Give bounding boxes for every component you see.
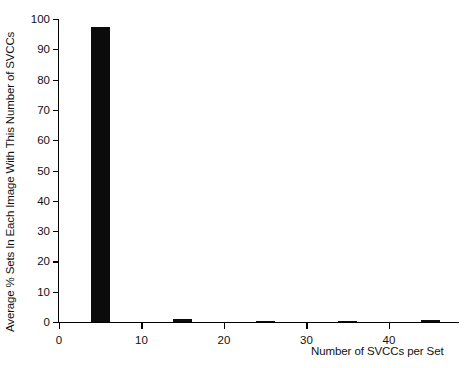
x-tick-mark — [224, 323, 225, 329]
y-tick-label: 100 — [31, 11, 50, 27]
y-tick-label: 10 — [37, 284, 50, 300]
y-tick-mark — [53, 292, 59, 293]
bar — [173, 319, 192, 322]
y-tick-mark — [53, 261, 59, 262]
x-tick-label: 10 — [135, 332, 148, 348]
x-axis-line — [58, 322, 459, 323]
y-tick-label: 40 — [37, 193, 50, 209]
y-tick-mark — [53, 80, 59, 81]
y-tick-label: 90 — [37, 41, 50, 57]
x-tick-label: 0 — [56, 332, 62, 348]
x-axis-title: Number of SVCCs per Set — [311, 345, 444, 357]
y-tick-mark — [53, 171, 59, 172]
x-tick-mark — [306, 323, 307, 329]
bar — [421, 320, 440, 322]
y-tick-label: 60 — [37, 132, 50, 148]
y-tick-label: 20 — [37, 253, 50, 269]
y-tick-mark — [53, 49, 59, 50]
y-tick-mark — [53, 19, 59, 20]
y-axis-title: Average % Sets In Each Image With This N… — [2, 2, 18, 332]
x-tick-label: 20 — [218, 332, 231, 348]
y-tick-label: 70 — [37, 102, 50, 118]
bar — [256, 321, 275, 323]
bar — [91, 27, 110, 322]
y-tick-label: 0 — [44, 314, 50, 330]
plot-area: 0102030405060708090100 — [59, 19, 459, 322]
y-tick-mark — [53, 201, 59, 202]
chart-figure: Average % Sets In Each Image With This N… — [0, 0, 465, 368]
y-tick-mark — [53, 231, 59, 232]
x-tick-mark — [389, 323, 390, 329]
y-tick-mark — [53, 140, 59, 141]
x-tick-mark — [59, 323, 60, 329]
y-tick-mark — [53, 110, 59, 111]
y-tick-label: 50 — [37, 163, 50, 179]
y-tick-label: 80 — [37, 72, 50, 88]
x-tick-mark — [141, 323, 142, 329]
y-tick-label: 30 — [37, 223, 50, 239]
bar — [338, 321, 357, 322]
